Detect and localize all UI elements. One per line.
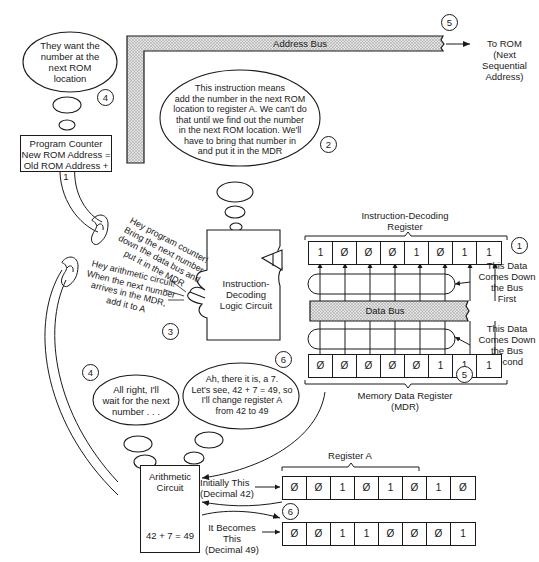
- destination-line: (Next Sequential: [470, 49, 539, 71]
- final-label-line: It Becomes This: [200, 522, 264, 544]
- thought-line: in the next ROM location. We'll: [162, 125, 318, 136]
- step-3-decoder: 3: [162, 323, 179, 340]
- thought-line: and put it in the MDR: [162, 146, 318, 157]
- final-label: It Becomes This (Decimal 49): [200, 522, 264, 555]
- ir-bit: 1: [453, 242, 477, 264]
- note-line: the Bus: [475, 282, 539, 293]
- alu-equation: 42 + 7 = 49: [141, 530, 199, 541]
- thought-line: wait for the next: [98, 395, 174, 406]
- reg-a-final-bit: 1: [355, 523, 379, 545]
- upper-data-loop: [308, 274, 455, 294]
- ir-brace: [305, 232, 507, 240]
- thought-line: location to register A. We can't do: [162, 104, 318, 115]
- reg-a-initial-bit: 1: [331, 477, 355, 499]
- thought-line: location: [28, 73, 112, 84]
- reg-a-final-bit: Ø: [307, 523, 331, 545]
- thought-line: All right, I'll: [98, 384, 174, 395]
- decoder-label-line: Instruction-: [215, 278, 277, 289]
- note-first: This Data Comes Down the Bus First: [475, 260, 539, 304]
- destination-line: Address): [470, 71, 539, 82]
- mdr-bit: 1: [477, 355, 501, 377]
- step-5-address: 5: [441, 14, 458, 31]
- rom-destination: To ROM (Next Sequential Address): [470, 38, 539, 82]
- mdr-bit: Ø: [357, 355, 381, 377]
- step-4-alu: 4: [82, 364, 99, 381]
- mdr-title-line: (MDR): [330, 401, 480, 412]
- ir-title-line: Register: [330, 221, 480, 232]
- reg-a-initial-bit: Ø: [307, 477, 331, 499]
- thought-line: I'll change register A: [188, 395, 296, 406]
- mdr-bit: Ø: [405, 355, 429, 377]
- note-line: This Data: [475, 323, 539, 334]
- reg-a-initial-bit: Ø: [283, 477, 307, 499]
- mdr-bit: Ø: [381, 355, 405, 377]
- note-second-arrow: [455, 337, 470, 345]
- reg-to-alu-arrow: [202, 502, 282, 506]
- decoder-label-line: Decoding: [215, 289, 277, 300]
- note-line: First: [475, 293, 539, 304]
- reg-a-final-bit: Ø: [427, 523, 451, 545]
- alu-title-line: Circuit: [141, 482, 199, 493]
- mdr-title-line: Memory Data Register: [330, 390, 480, 401]
- thought-line: Ah, there it is, a 7.: [188, 374, 296, 385]
- ir-bit: 1: [405, 242, 429, 264]
- reg-a-final-bit: 1: [451, 523, 475, 545]
- reg-a-initial-bit: Ø: [451, 477, 475, 499]
- note-line: Comes Down: [475, 271, 539, 282]
- data-bus-label: Data Bus: [350, 305, 420, 316]
- reg-a-initial-bit: Ø: [355, 477, 379, 499]
- mdr-bit: Ø: [309, 355, 333, 377]
- decoder-label-line: Logic Circuit: [215, 300, 277, 311]
- register-a-final: Ø Ø 1 1 Ø Ø Ø 1: [282, 522, 476, 546]
- step-1-ir: 1: [511, 237, 528, 254]
- alu-to-reg-arrow: [202, 511, 280, 518]
- mdr-brace: [305, 380, 507, 388]
- ir-title: Instruction-Decoding Register: [330, 210, 480, 232]
- ir-bit: Ø: [381, 242, 405, 264]
- thought-line: from 42 to 49: [188, 406, 296, 417]
- thought-decoder-text: This instruction means add the number in…: [162, 83, 318, 157]
- thought-alu-wait-text: All right, I'll wait for the next number…: [98, 384, 174, 417]
- program-counter-box: Program Counter New ROM Address = Old RO…: [20, 135, 112, 172]
- step-2-decoder: 2: [320, 136, 337, 153]
- alu-title-line: Arithmetic: [141, 471, 199, 482]
- thought-line: add the number in the next ROM: [162, 94, 318, 105]
- step-6-alu: 6: [275, 351, 292, 368]
- step-6-register: 6: [282, 503, 299, 520]
- note-line: Comes Down: [475, 334, 539, 345]
- pc-title: Program Counter: [21, 138, 111, 149]
- step-4-pc: 4: [97, 89, 114, 106]
- destination-line: To ROM: [470, 38, 539, 49]
- note-line: This Data: [475, 260, 539, 271]
- reg-a-final-bit: Ø: [403, 523, 427, 545]
- thought-line: that until we find out the number: [162, 115, 318, 126]
- reg-a-final-bit: Ø: [283, 523, 307, 545]
- ir-bit: 1: [309, 242, 333, 264]
- reg-a-initial-bit: Ø: [403, 477, 427, 499]
- initial-label-line: Initially This: [200, 477, 260, 488]
- mdr-bit: Ø: [333, 355, 357, 377]
- ir-bit: Ø: [357, 242, 381, 264]
- thought-line: number at the: [28, 51, 112, 62]
- instruction-register: 1 Ø Ø Ø 1 Ø 1 1: [308, 241, 502, 265]
- thought-line: next ROM: [28, 62, 112, 73]
- initial-label-line: (Decimal 42): [200, 488, 260, 499]
- pc-formula-line: New ROM Address =: [21, 149, 111, 160]
- mdr-bit: 1: [429, 355, 453, 377]
- thought-line: This instruction means: [162, 83, 318, 94]
- reg-a-initial-bit: 1: [427, 477, 451, 499]
- initial-label: Initially This (Decimal 42): [200, 477, 260, 499]
- address-bus-label: Address Bus: [260, 38, 340, 49]
- thought-line: Let's see, 42 + 7 = 49, so: [188, 385, 296, 396]
- thought-line: have to bring that number in: [162, 136, 318, 147]
- final-label-line: (Decimal 49): [200, 544, 264, 555]
- register-a-initial: Ø Ø 1 Ø 1 Ø 1 Ø: [282, 476, 476, 500]
- pc-formula-line: Old ROM Address + 1: [21, 160, 111, 182]
- register-a-title: Register A: [310, 450, 390, 461]
- reg-a-final-bit: 1: [331, 523, 355, 545]
- ir-title-line: Instruction-Decoding: [330, 210, 480, 221]
- mdr-title: Memory Data Register (MDR): [330, 390, 480, 412]
- note-first-arrow: [455, 282, 470, 284]
- register-a-brace: [282, 463, 419, 471]
- thought-line: They want the: [28, 40, 112, 51]
